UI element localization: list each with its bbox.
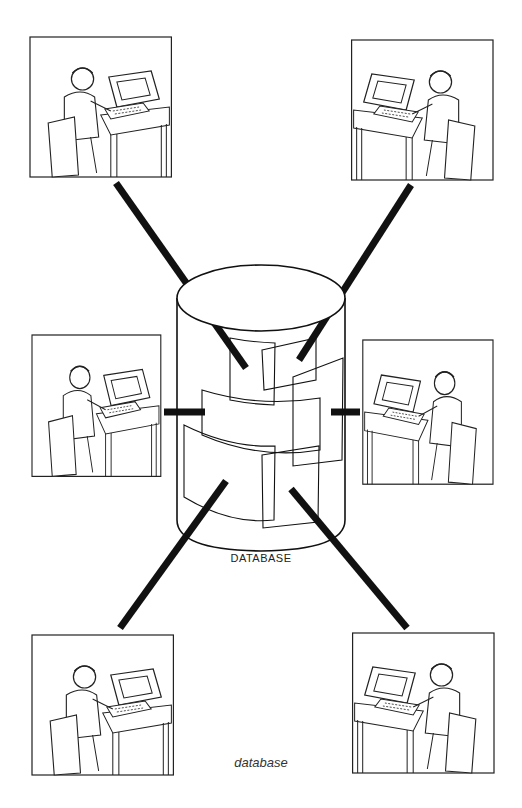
database-label: DATABASE [0,552,522,564]
panel-middle-left [32,335,161,476]
panel-top-right [352,40,493,180]
panel-middle-right [363,340,493,484]
panel-bottom-left [32,635,173,775]
panel-top-left [30,37,171,177]
figure-caption: database [0,755,522,770]
panel-bottom-right [353,633,494,773]
database-diagram [0,0,522,808]
